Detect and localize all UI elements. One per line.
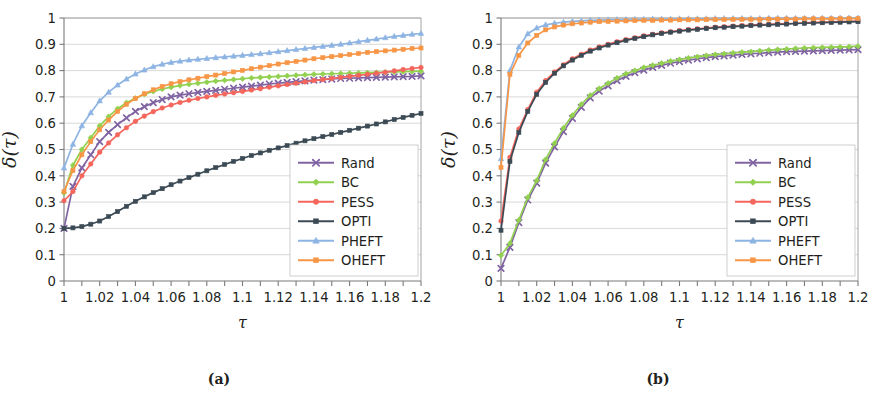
data-point-marker [624,38,628,42]
data-point-marker [785,22,789,26]
data-point-marker [205,75,209,79]
data-point-marker [249,88,254,93]
panel-a-caption: (a) [0,371,438,387]
data-point-marker [187,176,191,180]
x-tick-label: 1 [497,290,505,305]
data-point-marker [303,58,307,62]
data-point-marker [579,53,583,57]
data-point-marker [704,18,708,22]
legend-label: PHEFT [778,234,821,249]
data-point-marker [767,23,771,27]
data-point-marker [330,55,334,59]
data-point-marker [61,165,67,170]
data-point-marker [321,77,326,82]
data-point-marker [89,140,93,144]
data-point-marker [793,17,797,21]
data-point-marker [651,33,655,37]
x-tick-label: 1.08 [192,290,221,305]
data-point-marker [642,35,646,39]
data-point-marker [642,18,646,22]
data-point-marker [240,76,246,82]
data-point-marker [392,117,396,121]
data-point-marker [115,122,121,128]
chart-panel-b: 00.10.20.30.40.50.60.70.80.9111.021.041.… [439,0,877,393]
data-point-marker [419,65,424,70]
data-point-marker [802,21,806,25]
data-point-marker [776,17,780,21]
data-point-marker [213,93,218,98]
y-tick-label: 0.9 [35,37,56,52]
data-point-marker [124,115,130,121]
data-point-marker [213,78,219,84]
data-point-marker [80,153,84,157]
data-point-marker [285,82,290,87]
data-point-marker [285,144,289,148]
data-point-marker [526,109,530,113]
data-point-marker [517,130,521,134]
data-point-marker [106,130,112,136]
x-tick-label: 1.08 [629,290,658,305]
y-tick-label: 0.2 [472,221,493,236]
data-point-marker [633,36,637,40]
data-point-marker [570,22,574,26]
data-point-marker [633,19,637,23]
data-point-marker [151,109,156,114]
data-point-marker [329,76,334,81]
data-point-marker [160,84,164,88]
y-tick-label: 0.8 [472,63,493,78]
data-point-marker [88,152,94,158]
chart-a-canvas: 00.10.20.30.40.50.60.70.80.9111.021.041.… [0,0,438,345]
data-point-marker [348,128,352,132]
data-point-marker [107,118,111,122]
data-point-marker [677,29,681,33]
data-point-marker [151,191,155,195]
data-point-marker [695,27,699,31]
data-point-marker [133,109,139,115]
legend-label: OHEFT [341,253,386,268]
x-tick-label: 1.14 [299,290,328,305]
y-axis-title: δ(τ) [439,131,459,168]
data-point-marker [686,18,690,22]
data-point-marker [820,21,824,25]
chart-legend: RandBCPESSOPTIPHEFTOHEFT [727,145,855,276]
data-point-marker [312,137,316,141]
data-point-marker [71,169,75,173]
data-point-marker [142,195,146,199]
data-point-marker [651,18,655,22]
data-point-marker [561,23,565,27]
data-point-marker [196,172,200,176]
y-tick-label: 0.4 [35,169,56,184]
data-point-marker [178,80,182,84]
data-point-marker [365,50,369,54]
data-point-marker [722,18,726,22]
data-point-marker [124,102,128,106]
y-tick-label: 0.6 [472,116,493,131]
data-point-marker [339,130,343,134]
y-tick-label: 1 [48,11,56,26]
data-point-marker [677,18,681,22]
data-point-marker [535,33,539,37]
data-point-marker [660,31,664,35]
data-point-marker [160,187,164,191]
data-point-marker [116,210,120,214]
data-point-marker [314,258,319,263]
data-point-marker [544,28,548,32]
data-point-marker [303,80,308,85]
data-point-marker [588,20,592,24]
data-point-marker [499,228,503,232]
data-point-marker [142,92,146,96]
data-point-marker [97,139,103,145]
data-series-pheft [498,15,861,161]
data-point-marker [392,48,396,52]
data-point-marker [758,17,762,21]
x-tick-label: 1.2 [848,290,869,305]
x-tick-label: 1.18 [371,290,400,305]
data-point-marker [178,100,183,105]
data-point-marker [339,54,343,58]
performance-profile-figure: 00.10.20.30.40.50.60.70.80.9111.021.041.… [0,0,877,393]
x-tick-label: 1.18 [808,290,837,305]
data-point-marker [811,17,815,21]
data-point-marker [544,80,548,84]
data-point-marker [561,64,565,68]
legend-label: OPTI [778,214,808,229]
